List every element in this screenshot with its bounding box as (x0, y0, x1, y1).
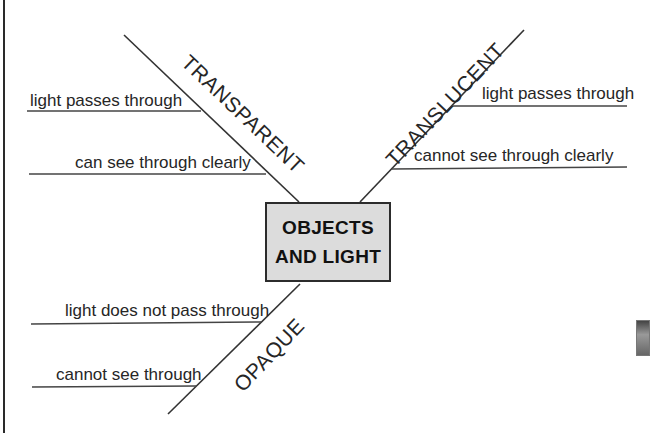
opaque-detail-line-2 (32, 386, 196, 387)
opaque-detail-2: cannot see through (56, 365, 202, 384)
translucent-detail-2: cannot see through clearly (414, 146, 614, 165)
transparent-detail-1: light passes through (30, 91, 182, 110)
opaque-detail-1: light does not pass through (65, 301, 269, 320)
central-topic-box: OBJECTS AND LIGHT (265, 202, 391, 282)
opaque-detail-line-1 (31, 322, 262, 324)
translucent-detail-line-2 (392, 167, 627, 169)
transparent-branch-line (124, 35, 299, 202)
portrait-thumbnail-image (636, 320, 650, 356)
translucent-detail-1: light passes through (482, 84, 634, 103)
transparent-detail-2: can see through clearly (75, 153, 251, 172)
central-topic-line-1: OBJECTS (282, 213, 374, 242)
central-topic-line-2: AND LIGHT (275, 242, 381, 271)
opaque-branch-label: OPAQUE (229, 314, 309, 396)
